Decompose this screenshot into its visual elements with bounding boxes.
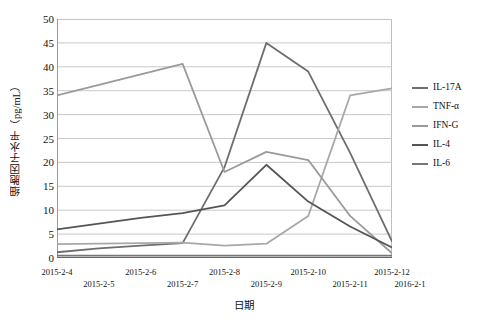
x-tick-label: 2015-2-5: [83, 280, 114, 289]
legend-item-label: TNF-α: [433, 102, 459, 112]
x-tick-label: 2015-2-7: [167, 280, 198, 289]
x-tick-label: 2015-2-9: [251, 280, 282, 289]
x-axis-title: 日期: [0, 297, 487, 312]
x-tick-label: 2015-2-10: [291, 268, 326, 277]
legend-swatch-icon: [412, 125, 428, 127]
legend-item-label: IFN-G: [433, 121, 458, 131]
legend-swatch-icon: [412, 106, 428, 108]
legend-item[interactable]: TNF-α: [412, 97, 487, 116]
chart-legend: IL-17ATNF-αIFN-GIL-4IL-6: [412, 78, 487, 173]
x-tick-label: 2015-2-8: [209, 268, 240, 277]
x-tick-label: 2015-2-4: [41, 268, 72, 277]
legend-item[interactable]: IL-4: [412, 135, 487, 154]
x-tick-label: 2016-2-1: [394, 280, 425, 289]
legend-item[interactable]: IL-6: [412, 154, 487, 173]
legend-item-label: IL-4: [433, 140, 450, 150]
legend-item-label: IL-6: [433, 159, 450, 169]
x-tick-label: 2015-2-12: [374, 268, 409, 277]
legend-swatch-icon: [412, 144, 428, 146]
line-chart: 细胞因子水平（pg/mL） 05101520253035404550 2015-…: [0, 0, 487, 328]
legend-item[interactable]: IFN-G: [412, 116, 487, 135]
legend-item[interactable]: IL-17A: [412, 78, 487, 97]
legend-item-label: IL-17A: [433, 83, 462, 93]
legend-swatch-icon: [412, 163, 428, 165]
x-tick-label: 2015-2-6: [125, 268, 156, 277]
x-tick-label: 2015-2-11: [333, 280, 368, 289]
legend-swatch-icon: [412, 87, 428, 89]
